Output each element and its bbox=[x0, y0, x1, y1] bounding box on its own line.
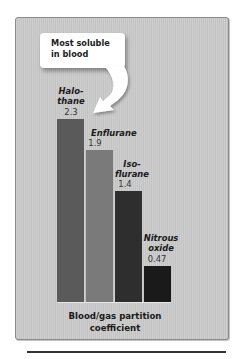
label-line: flurane bbox=[112, 169, 152, 179]
callout-line-2: in blood bbox=[51, 49, 125, 60]
bar-enflurane bbox=[86, 150, 113, 302]
figure: Most soluble in blood Halo- thane 2.3 En… bbox=[0, 0, 244, 359]
bar-value-isoflurane: 1.4 bbox=[117, 179, 133, 189]
label-line: Halo- bbox=[52, 86, 90, 96]
bar-value-nitrous-oxide: 0.47 bbox=[146, 254, 168, 264]
bar-label-nitrous-oxide: Nitrous oxide bbox=[141, 233, 181, 253]
bar-label-isoflurane: Iso- flurane bbox=[112, 159, 152, 179]
callout-most-soluble: Most soluble in blood bbox=[40, 33, 125, 68]
bar-isoflurane bbox=[115, 191, 142, 302]
separator-line bbox=[27, 351, 226, 353]
bar-halothane bbox=[57, 119, 84, 302]
title-line-2: coefficient bbox=[40, 322, 190, 334]
title-line-1: Blood/gas partition bbox=[40, 310, 190, 322]
bar-label-halothane: Halo- thane bbox=[52, 86, 90, 106]
label-line: Nitrous bbox=[141, 233, 181, 243]
label-line: oxide bbox=[141, 243, 181, 253]
label-line: thane bbox=[52, 96, 90, 106]
callout-line-1: Most soluble bbox=[51, 38, 125, 49]
label-line: Enflurane bbox=[91, 128, 138, 138]
chart-title: Blood/gas partition coefficient bbox=[40, 310, 190, 334]
bar-value-halothane: 2.3 bbox=[52, 107, 90, 117]
baseline bbox=[57, 302, 171, 303]
label-line: Iso- bbox=[112, 159, 152, 169]
bar-nitrous-oxide bbox=[144, 266, 171, 302]
bar-value-enflurane: 1.9 bbox=[88, 138, 102, 148]
bar-label-enflurane: Enflurane bbox=[86, 128, 138, 138]
